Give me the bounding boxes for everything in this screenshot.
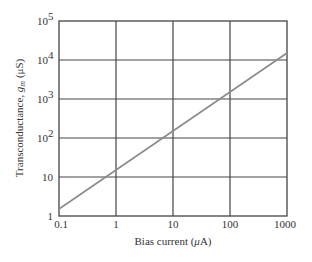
y-tick-1e5-exp: 5 — [48, 10, 54, 22]
y-tick-labels: 1 10 10 2 10 3 10 4 10 5 — [37, 10, 54, 222]
y-tick-1e4-exp: 4 — [48, 49, 54, 61]
y-tick-1e3: 10 — [37, 93, 49, 105]
plot-area — [59, 21, 287, 216]
x-tick-0.1: 0.1 — [54, 218, 68, 230]
x-axis-label: Bias current (μA) — [134, 235, 211, 248]
y-axis-label: Transconductance, gm (μS) — [13, 58, 27, 177]
chart: 1 10 10 2 10 3 10 4 10 5 0.1 1 10 100 10… — [0, 0, 312, 262]
y-tick-1e2: 10 — [37, 132, 49, 144]
x-tick-1: 1 — [113, 218, 119, 230]
y-tick-1e3-exp: 3 — [48, 88, 54, 100]
y-tick-1e2-exp: 2 — [48, 127, 54, 139]
x-tick-1000: 1000 — [274, 218, 297, 230]
x-tick-10: 10 — [168, 218, 180, 230]
x-tick-labels: 0.1 1 10 100 1000 — [54, 218, 296, 230]
y-tick-1e5: 10 — [37, 15, 49, 27]
y-tick-1e4: 10 — [37, 54, 49, 66]
y-tick-1: 1 — [48, 210, 54, 222]
x-tick-100: 100 — [222, 218, 239, 230]
y-tick-10: 10 — [42, 171, 54, 183]
